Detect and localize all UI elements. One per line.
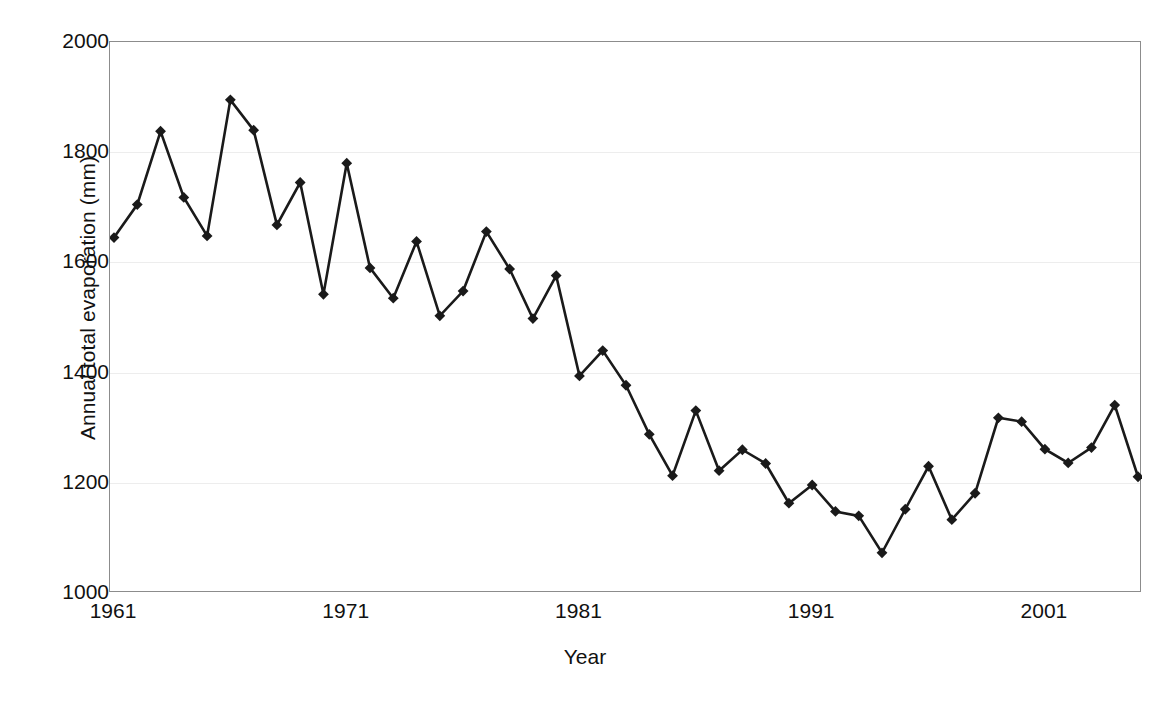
data-point-1996 [923, 461, 934, 472]
data-point-1963 [155, 126, 166, 137]
x-tick-1981: 1981 [533, 600, 623, 621]
data-point-1986 [690, 405, 701, 416]
x-tick-2001: 2001 [999, 600, 1089, 621]
y-tick-2000: 2000 [29, 30, 109, 51]
data-point-2004 [1109, 400, 1120, 411]
data-point-1974 [411, 236, 422, 247]
data-point-1989 [760, 458, 771, 469]
data-point-1999 [993, 412, 1004, 423]
y-tick-1600: 1600 [29, 250, 109, 271]
data-point-1969 [295, 177, 306, 188]
evaporation-line-chart: Annual total evaporation (mm) 2000180016… [0, 0, 1170, 703]
x-axis-title: Year [0, 645, 1170, 669]
y-tick-1800: 1800 [29, 140, 109, 161]
x-tick-1991: 1991 [766, 600, 856, 621]
y-tick-1200: 1200 [29, 471, 109, 492]
data-point-1968 [272, 220, 283, 231]
data-point-1970 [318, 289, 329, 300]
data-point-2005 [1133, 471, 1142, 482]
data-point-1985 [667, 470, 678, 481]
data-point-1980 [551, 270, 562, 281]
data-point-1995 [900, 504, 911, 515]
plot-area [109, 41, 1141, 592]
data-series-evaporation [110, 42, 1142, 593]
series-line [114, 100, 1138, 553]
data-point-1979 [528, 313, 539, 324]
x-tick-1971: 1971 [301, 600, 391, 621]
data-point-1984 [644, 429, 655, 440]
series-markers [110, 94, 1142, 558]
data-point-1971 [341, 158, 352, 169]
x-tick-1961: 1961 [68, 600, 158, 621]
y-tick-1400: 1400 [29, 361, 109, 382]
